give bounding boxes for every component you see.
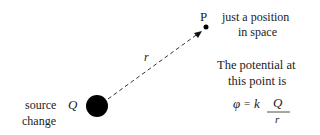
source-charge [86,95,108,117]
distance-arrow [108,33,199,99]
potential-text-1: The potential at [217,59,295,72]
source-label-1: source [25,99,56,112]
formula-denominator: r [275,113,279,126]
formula-numerator: Q [273,96,282,109]
source-label-2: change [22,115,56,128]
point-description-1: just a position [222,11,289,24]
point-label: P [200,10,207,23]
source-symbol: Q [68,98,77,111]
point-p [204,25,209,30]
formula-k: k [254,97,260,110]
potential-text-2: this point is [228,75,286,88]
point-description-2: in space [238,26,277,39]
arrowhead-icon [194,31,202,38]
distance-label: r [144,51,149,64]
formula-phi: φ [233,97,240,110]
formula-equals: = [244,97,250,110]
